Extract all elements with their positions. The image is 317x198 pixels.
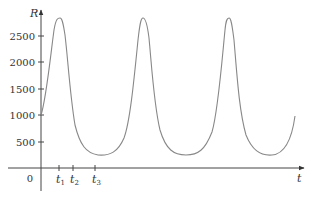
y-tick-2500: 2500 (10, 31, 35, 42)
y-tick-1500: 1500 (10, 84, 35, 95)
x-tick-t1: t1 (56, 173, 65, 187)
x-axis-label: t (297, 172, 302, 185)
y-tick-500: 500 (16, 137, 35, 148)
origin-label: 0 (27, 173, 33, 184)
chart: 2500 2000 1500 1000 500 0 t1 t2 t3 R t (0, 0, 317, 198)
y-tick-2000: 2000 (10, 57, 35, 68)
y-axis-label: R (29, 7, 38, 20)
data-curve (41, 18, 295, 155)
x-tick-t2: t2 (70, 173, 79, 187)
x-tick-t3: t3 (92, 173, 101, 187)
y-tick-1000: 1000 (10, 110, 35, 121)
